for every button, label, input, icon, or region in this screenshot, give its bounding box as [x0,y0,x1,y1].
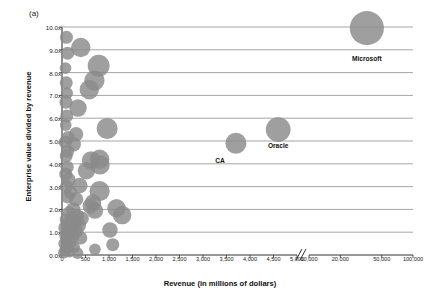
data-bubble [58,247,70,259]
data-bubble [225,133,246,154]
data-bubble [72,247,84,259]
data-bubble [60,119,72,131]
data-bubble [60,31,73,44]
data-bubble [113,206,131,224]
bubble-label-oracle: Oracle [268,142,289,149]
data-bubble [60,62,72,74]
data-bubble [266,117,291,142]
data-bubble [102,222,117,237]
scatter-plot-canvas [0,0,426,303]
bubble-label-ca: CA [215,157,225,164]
data-bubble [87,202,104,219]
data-bubble [89,243,101,255]
data-bubble [78,162,96,180]
data-bubble [80,80,99,99]
data-bubble [106,238,119,251]
data-bubble [350,11,384,45]
figure-panel-a: (a) Enterprise value divided by revenue … [0,0,426,303]
data-bubble [59,96,72,109]
data-bubble [60,149,73,162]
bubble-label-microsoft: Microsoft [352,55,382,62]
data-bubble [61,47,74,60]
data-bubble [97,118,118,139]
